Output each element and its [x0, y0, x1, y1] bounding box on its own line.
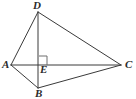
geometry-canvas — [0, 0, 136, 99]
vertex-label-C: C — [125, 59, 132, 70]
figure-background — [0, 0, 136, 99]
geometry-figure: D A C B E — [0, 0, 136, 99]
vertex-label-B: B — [35, 88, 42, 99]
vertex-label-E: E — [40, 64, 47, 75]
vertex-label-D: D — [33, 0, 41, 11]
vertex-label-A: A — [2, 59, 9, 70]
